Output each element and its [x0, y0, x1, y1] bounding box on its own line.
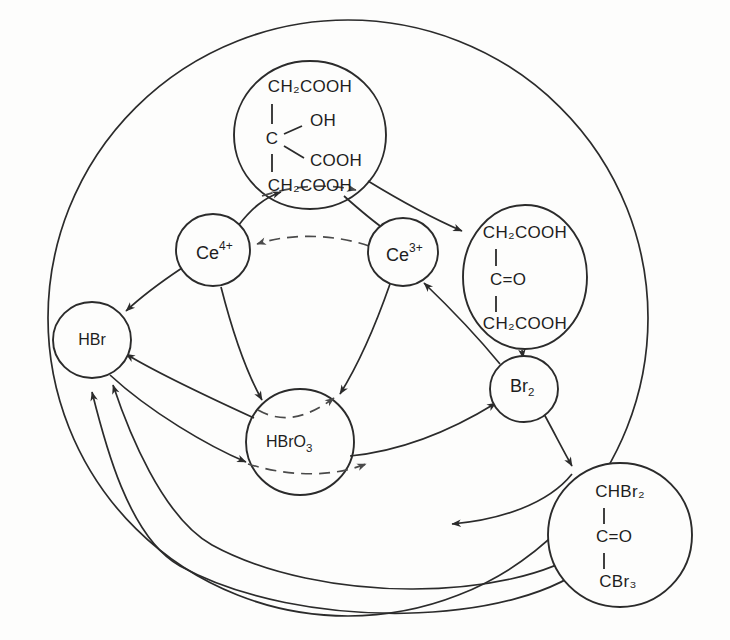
hydrogen-bromide-label: HBr: [78, 331, 106, 348]
edge-ce3-to-ce4-dashed: [257, 236, 369, 246]
citric-acid-center-label: C: [266, 129, 279, 148]
edge-hbr-to-hbro3: [110, 375, 246, 462]
acetonedicarboxylic-bottom-label: CH₂COOH: [483, 314, 567, 333]
edge-hbro3-to-hbr: [126, 354, 254, 418]
acetonedicarboxylic-center-label: C=O: [490, 270, 526, 289]
diagram-canvas: CH₂COOH C OH COOH CH₂COOH Ce4+ Ce3+ CH₂C…: [0, 0, 730, 640]
bromo-product-bottom-label: CBr₃: [599, 572, 636, 591]
citric-acid-hydroxyl-label: OH: [310, 111, 336, 130]
citric-acid-carboxyl-label: COOH: [310, 151, 362, 170]
edge-ce4-to-hbro3: [221, 287, 262, 400]
edge-hbro3-to-br2: [350, 403, 496, 456]
citric-acid-top-label: CH₂COOH: [268, 77, 352, 96]
bromo-product-top-label: CHBr₂: [595, 482, 645, 501]
reaction-scheme-svg: CH₂COOH C OH COOH CH₂COOH Ce4+ Ce3+ CH₂C…: [0, 0, 730, 640]
acetonedicarboxylic-top-label: CH₂COOH: [483, 223, 567, 242]
bromo-product-center-label: C=O: [596, 527, 632, 546]
edge-ce4-to-hbr: [126, 268, 182, 311]
citric-acid-bottom-label: CH₂COOH: [268, 176, 352, 195]
edge-br2-to-bromo-product: [544, 414, 572, 466]
edge-ce3-to-hbro3: [340, 284, 390, 394]
